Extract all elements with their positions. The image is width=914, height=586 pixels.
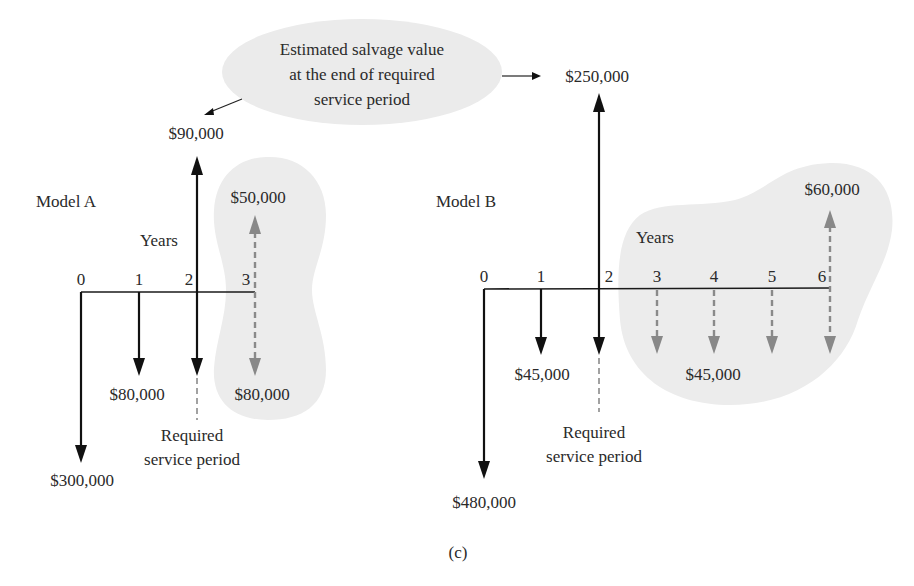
model-a-title: Model A: [36, 192, 97, 211]
model-b-tick-4: 4: [710, 267, 719, 286]
model-a-year3-inflow-label: $50,000: [230, 188, 285, 207]
model-b-tick-2: 2: [605, 267, 614, 286]
model-a-year2-arrowhead-icon: [191, 358, 203, 376]
model-b-axis-label: Years: [636, 228, 674, 247]
model-b-tick-1: 1: [537, 267, 546, 286]
figure-caption: (c): [449, 543, 468, 562]
model-b-tick-6: 6: [818, 267, 827, 286]
model-b-years3to6-label: $45,000: [685, 365, 740, 384]
salvage-callout: Estimated salvage value at the end of re…: [204, 19, 541, 125]
cash-flow-diagram: Estimated salvage value at the end of re…: [0, 0, 914, 586]
callout-line-1: Estimated salvage value: [280, 40, 444, 59]
callout-pointer-a-head-icon: [204, 108, 214, 115]
callout-pointer-a: [210, 99, 242, 112]
model-a-tick-3: 3: [242, 270, 251, 289]
model-a-axis-label: Years: [140, 231, 178, 250]
model-b-salvage-label: $250,000: [565, 67, 629, 86]
model-b-time-axis: [484, 288, 830, 289]
model-a-service-label-2: service period: [144, 450, 240, 469]
model-a-salvage-arrowhead-icon: [191, 156, 203, 175]
model-b-tick-0: 0: [480, 267, 489, 286]
model-b-year2-arrowhead-icon: [593, 337, 605, 355]
model-a-tick-0: 0: [77, 270, 86, 289]
callout-pointer-b-head-icon: [532, 72, 541, 80]
model-a-tick-1: 1: [135, 270, 144, 289]
model-a-year1-label: $80,000: [109, 385, 164, 404]
model-b-service-label-2: service period: [546, 447, 642, 466]
model-b-service-label-1: Required: [563, 423, 626, 442]
model-b-year1-label: $45,000: [514, 365, 569, 384]
model-a-year0-label: $300,000: [50, 471, 114, 490]
model-b-tick-5: 5: [768, 267, 777, 286]
model-b-salvage-arrowhead-icon: [593, 93, 605, 112]
model-a-year3-outflow-label: $80,000: [234, 385, 289, 404]
model-b-title: Model B: [436, 192, 496, 211]
model-a-year1-arrowhead-icon: [133, 358, 145, 376]
model-b-tick-3: 3: [653, 267, 662, 286]
model-a-salvage-label: $90,000: [168, 124, 223, 143]
model-b-year0-arrowhead-icon: [478, 461, 490, 479]
model-b-year6-inflow-label: $60,000: [804, 180, 859, 199]
callout-line-3: service period: [314, 90, 410, 109]
model-b-diagram: Model B Years 0 1 2 3 4 5 6 $480,000 $45…: [436, 67, 892, 512]
model-a-diagram: Model A Years 0 1 2 3 $300,000 $80,000 $…: [36, 124, 326, 490]
model-b-year0-label: $480,000: [452, 493, 516, 512]
callout-line-2: at the end of required: [289, 65, 435, 84]
model-b-year1-arrowhead-icon: [535, 337, 547, 355]
model-a-year0-arrowhead-icon: [75, 445, 87, 463]
model-a-tick-2: 2: [185, 270, 194, 289]
model-a-service-label-1: Required: [161, 426, 224, 445]
